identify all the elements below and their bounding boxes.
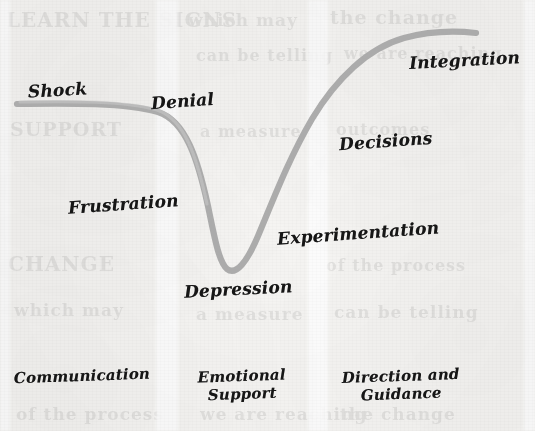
ghost-text: which may xyxy=(188,10,298,30)
ghost-text: a measure xyxy=(200,122,302,141)
ghost-text: the change xyxy=(330,6,458,28)
ghost-text: can be telling xyxy=(334,302,479,322)
stage-label-decisions: Decisions xyxy=(338,128,433,154)
stage-label-denial: Denial xyxy=(150,89,214,113)
ghost-text: the change xyxy=(340,404,456,424)
page-edge-right xyxy=(524,0,535,431)
ghost-text: of the process xyxy=(326,256,466,275)
ghost-text: which may xyxy=(14,300,124,320)
page-edge-left xyxy=(0,0,10,431)
footer-line-1: Communication xyxy=(0,365,172,389)
stage-label-depression: Depression xyxy=(184,276,293,302)
footer-label-direction-guidance: Direction and Guidance xyxy=(310,365,491,407)
ghost-text: CHANGE xyxy=(8,252,115,276)
ghost-text: of the process xyxy=(16,404,164,424)
ghost-text: LEARN THE SIGNS xyxy=(6,8,237,32)
stage-label-experimentation: Experimentation xyxy=(277,217,440,248)
footer-label-communication: Communication xyxy=(0,365,172,389)
ghost-text: a measure xyxy=(196,304,303,324)
stage-label-integration: Integration xyxy=(409,47,521,73)
ghost-text: we are reaching xyxy=(200,404,367,424)
ghost-text: SUPPORT xyxy=(10,118,122,140)
footer-label-emotional-support: Emotional Support xyxy=(151,365,332,407)
change-curve-diagram: LEARN THE SIGNS which may the change can… xyxy=(0,0,535,431)
stage-label-shock: Shock xyxy=(28,78,88,101)
